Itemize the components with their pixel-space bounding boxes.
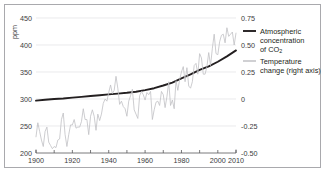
chart-figure: 200250300350400450 -0.50-0.2500.250.500.… [4,4,321,168]
y-axis-title: ppm [10,25,19,39]
y2-tick-label: 0.75 [241,14,255,23]
y2-tick-label: 0.50 [241,41,255,50]
y2-axis-tick-labels: -0.50-0.2500.250.500.75 [241,14,257,158]
y2-tick-label: -0.25 [241,122,257,131]
legend-label-co2: concentration [260,36,304,45]
x-tick-label: 1940 [101,156,117,165]
legend-label-temperature: Temperature [260,57,302,66]
y2-tick-label: 0 [241,95,245,104]
series-line [36,50,236,100]
legend-label-co2: of CO2 [260,45,282,55]
legend-label-temperature: change (right axis) [260,66,321,75]
y-tick-label: 250 [20,122,32,131]
y-tick-label: 450 [20,14,32,23]
y-tick-label: 350 [20,68,32,77]
data-series-layer [36,28,236,149]
x-tick-label: 1960 [137,156,153,165]
co2-temperature-line-chart: 200250300350400450 -0.50-0.2500.250.500.… [5,5,322,169]
x-axis-ticks [36,150,236,153]
x-tick-label: 2010 [228,156,244,165]
y-axis-title-label: ppm [10,25,19,39]
x-axis-line [36,150,236,154]
x-tick-label: 1980 [173,156,189,165]
y-axis-tick-labels: 200250300350400450 [20,14,32,158]
x-tick-label: 2000 [210,156,226,165]
series-line [36,28,236,149]
y-tick-label: 400 [20,41,32,50]
x-tick-label: 1920 [64,156,80,165]
x-axis-tick-labels: 1900192019401960198020002010 [28,156,244,165]
y-tick-label: 300 [20,95,32,104]
x-tick-label: 1900 [28,156,44,165]
y2-tick-label: 0.25 [241,68,255,77]
legend-label-co2: Atmospheric [260,27,301,36]
